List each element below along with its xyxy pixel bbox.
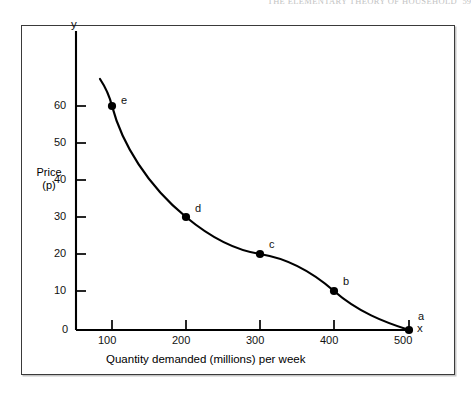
y-axis-title: Price (p)	[26, 166, 72, 191]
data-point-b	[330, 287, 338, 295]
data-point-c	[256, 250, 264, 258]
y-axis-title-line1: Price	[26, 166, 72, 179]
x-axis-title: Quantity demanded (millions) per week	[106, 353, 305, 365]
running-header-title: THE ELEMENTARY THEORY OF HOUSEHOLD	[268, 0, 457, 6]
y-tick-label-60: 60	[54, 99, 66, 111]
x-tick-marks	[112, 320, 409, 330]
y-tick-label-0: 0	[62, 323, 68, 335]
demand-curve-line	[100, 79, 409, 330]
figure-frame: y x 60 50 40 30 20 10 0 100 200 300 400 …	[21, 25, 455, 375]
chart-canvas	[22, 26, 456, 376]
x-tick-label-400: 400	[320, 334, 338, 346]
y-axis-title-line2: (p)	[26, 179, 72, 192]
point-label-c: c	[269, 238, 275, 250]
x-tick-label-500: 500	[394, 334, 412, 346]
x-tick-label-200: 200	[172, 334, 190, 346]
y-tick-label-20: 20	[54, 247, 66, 259]
y-axis-marker: y	[71, 18, 77, 30]
y-tick-label-30: 30	[54, 210, 66, 222]
page-number: 59	[463, 0, 471, 6]
x-axis-marker: x	[417, 322, 423, 334]
running-header: THE ELEMENTARY THEORY OF HOUSEHOLD 59	[0, 0, 471, 11]
point-label-a: a	[418, 310, 424, 322]
point-label-e: e	[121, 94, 127, 106]
y-tick-label-50: 50	[54, 136, 66, 148]
y-tick-label-10: 10	[54, 284, 66, 296]
data-point-markers	[108, 102, 413, 334]
x-tick-label-300: 300	[246, 334, 264, 346]
point-label-b: b	[343, 275, 349, 287]
x-tick-label-100: 100	[98, 334, 116, 346]
demand-curve-chart: y x 60 50 40 30 20 10 0 100 200 300 400 …	[22, 26, 456, 376]
y-tick-marks	[76, 106, 86, 291]
point-label-d: d	[195, 202, 201, 214]
data-point-a	[405, 326, 413, 334]
data-point-e	[108, 102, 116, 110]
data-point-d	[182, 213, 190, 221]
